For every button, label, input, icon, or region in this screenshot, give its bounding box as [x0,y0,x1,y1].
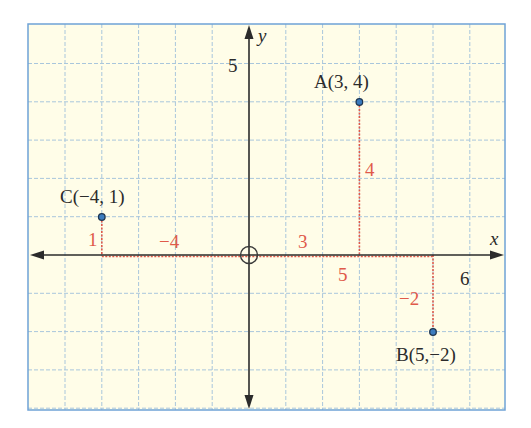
y-tick-label: 5 [228,55,238,76]
x-tick-label: 6 [460,268,470,289]
point-b-label: B(5,−2) [396,344,456,366]
distance-c-vertical: 1 [88,229,98,250]
distance-c-horizontal: −4 [159,231,180,252]
point-c [99,214,106,221]
point-a [356,99,363,106]
distance-b-vertical: −2 [399,288,419,309]
point-c-label: C(−4, 1) [60,186,125,208]
coordinate-plane: x y 6 5 A(3, 4) B(5,−2) C(−4, 1) 3 4 5 −… [0,0,531,428]
x-axis-label: x [489,228,499,249]
point-b [430,329,437,336]
distance-a-horizontal: 3 [298,231,308,252]
distance-a-vertical: 4 [365,159,375,180]
point-a-label: A(3, 4) [314,71,369,93]
y-axis-label: y [256,25,267,46]
distance-b-horizontal: 5 [338,264,348,285]
